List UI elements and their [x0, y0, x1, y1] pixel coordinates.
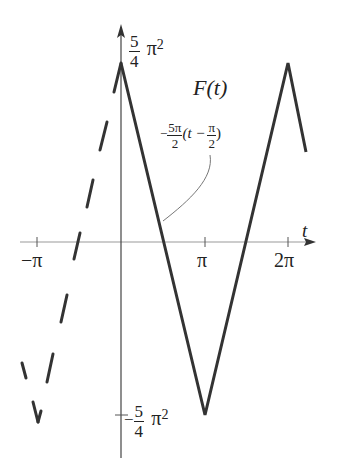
y-label-bottom: −54 π2: [124, 403, 168, 440]
f-solid-line: [121, 63, 306, 415]
x-label-neg-pi: −π: [21, 250, 42, 270]
x-label-2pi: 2π: [274, 250, 294, 270]
t-axis-label: t: [302, 221, 307, 240]
annotation-leader: [163, 155, 210, 221]
x-label-pi: π: [197, 250, 207, 270]
annotation-formula: −5π2(t −π2): [160, 121, 221, 150]
y-label-top: 54 π2: [129, 33, 164, 70]
function-label: F(t): [193, 77, 227, 99]
chart-canvas: [0, 0, 342, 468]
